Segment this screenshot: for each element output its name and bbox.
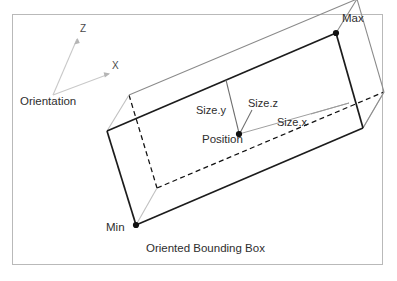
axis-x-label: X: [112, 61, 119, 71]
max-point-label: Max: [342, 13, 364, 25]
position-point-label: Position: [202, 134, 243, 146]
axis-z-label: Z: [80, 24, 86, 34]
min-point-marker: [133, 222, 139, 228]
size-z-label: Size.z: [248, 98, 278, 109]
min-point-label: Min: [106, 222, 125, 234]
bounding-box-diagram-canvas: [0, 0, 397, 281]
figure-caption: Oriented Bounding Box: [146, 243, 265, 255]
figure-root: Z X Orientation Max Min Position Size.y …: [0, 0, 397, 281]
orientation-label: Orientation: [20, 96, 76, 108]
size-x-label: Size.x: [277, 117, 307, 128]
max-point-marker: [333, 30, 339, 36]
size-y-label: Size.y: [196, 105, 226, 116]
figure-frame: [13, 15, 383, 265]
